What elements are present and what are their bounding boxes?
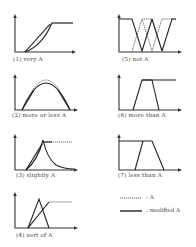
legend-label: : modified A: [146, 207, 180, 213]
panel-not-a: (5) not A: [116, 14, 186, 66]
y-axis-arrow-icon: [117, 74, 121, 78]
very-a-graph: [12, 14, 78, 54]
slightly-a-graph: [12, 134, 82, 174]
y-axis-arrow-icon: [117, 134, 121, 138]
x-axis-arrow-icon: [74, 226, 78, 230]
panel-label: (6) more than A: [118, 112, 166, 118]
legend: : A : modified A: [120, 192, 194, 222]
y-axis-arrow-icon: [13, 14, 17, 18]
x-axis-arrow-icon: [74, 108, 78, 112]
y-axis-arrow-icon: [13, 134, 17, 138]
x-axis-arrow-icon: [178, 168, 182, 172]
y-axis-arrow-icon: [13, 192, 17, 196]
panel-more-or-less-a: (2) more or less A: [12, 74, 82, 124]
more-than-a-graph: [116, 74, 186, 112]
panel-label: (1) very A: [13, 56, 43, 62]
panel-label: (2) more or less A: [12, 112, 66, 118]
panel-label: (3) slightly A: [16, 172, 55, 178]
panel-more-than-a: (6) more than A: [116, 74, 186, 124]
x-axis-arrow-icon: [178, 50, 182, 54]
panel-less-than-a: (7) less than A: [116, 134, 186, 184]
x-axis-arrow-icon: [74, 168, 78, 172]
panel-very-a: (1) very A: [12, 14, 78, 66]
sort-of-a-graph: [12, 192, 82, 232]
legend-item-a: : A: [120, 195, 194, 203]
less-than-a-graph: [116, 134, 186, 174]
panel-label: (7) less than A: [118, 172, 162, 178]
more-or-less-a-graph: [12, 74, 82, 112]
x-axis-arrow-icon: [178, 108, 182, 112]
not-a-graph: [116, 14, 186, 54]
panel-label: (4) sort of A: [16, 232, 53, 238]
panel-slightly-a: (3) slightly A: [12, 134, 82, 184]
x-axis-arrow-icon: [72, 50, 76, 54]
panel-label: (5) not A: [122, 56, 149, 62]
legend-label: : A: [146, 194, 154, 200]
panel-sort-of-a: (4) sort of A: [12, 192, 82, 242]
legend-item-modified-a: : modified A: [120, 208, 194, 216]
y-axis-arrow-icon: [117, 14, 121, 18]
y-axis-arrow-icon: [13, 74, 17, 78]
